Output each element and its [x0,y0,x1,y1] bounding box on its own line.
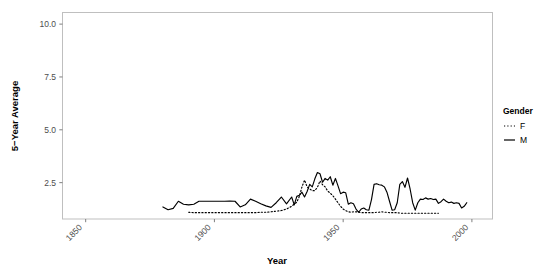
legend-item-m[interactable]: M [503,133,527,146]
y-tick-label: 5.0 [44,125,56,135]
y-tick-label: 10.0 [39,19,56,29]
y-axis-title: 5−Year Average [9,81,20,151]
plot-panel [63,13,493,220]
x-axis-title: Year [267,255,287,266]
legend-item-f[interactable]: F [503,119,525,132]
legend-label: F [520,121,525,131]
chart-container: 2.55.07.510.0 1850190019502000 5−Year Av… [0,0,550,272]
line-chart: 2.55.07.510.0 1850190019502000 5−Year Av… [0,0,550,272]
y-tick-label: 2.5 [44,178,56,188]
y-tick-label: 7.5 [44,72,56,82]
legend-label: M [520,135,527,145]
legend-title: Gender [503,106,533,116]
